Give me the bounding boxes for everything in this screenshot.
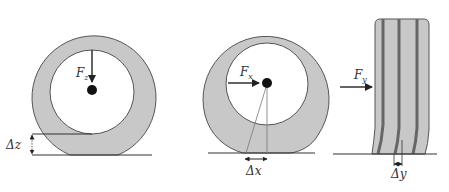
panel-vertical: Δz Fz [5,36,156,155]
delta-x-label: Δx [245,164,262,178]
panel-lateral: Δy Fy [333,19,437,181]
hub [262,78,272,88]
panel-longitudinal: Fx Δx [203,36,329,178]
delta-z-label: Δz [5,138,22,152]
delta-y-label: Δy [390,167,407,181]
hub [87,85,97,95]
tire-deformation-diagram: Δz Fz Fx Δx Δy Fy [0,0,449,192]
force-y-label: Fy [353,68,367,84]
